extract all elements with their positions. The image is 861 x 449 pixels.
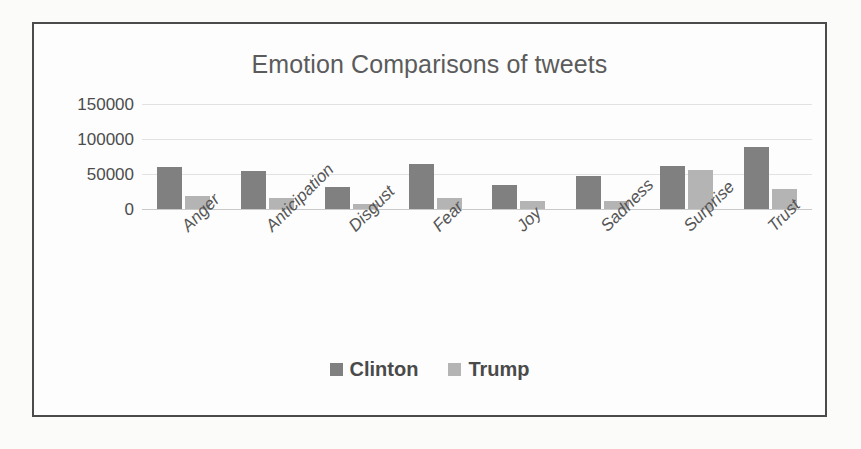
- y-axis: 150000 100000 50000 0: [44, 104, 134, 219]
- x-axis-cell-1: Anticipation: [226, 212, 310, 302]
- bar-group-trust: [728, 104, 812, 209]
- x-axis-cell-2: Disgust: [310, 212, 394, 302]
- legend-label-trump: Trump: [468, 358, 529, 381]
- y-axis-tick-50000: 50000: [48, 166, 134, 183]
- bar-clinton-anticipation[interactable]: [241, 171, 266, 210]
- x-axis-cell-7: Trust: [728, 212, 812, 302]
- x-axis-cell-0: Anger: [142, 212, 226, 302]
- chart-title: Emotion Comparisons of tweets: [34, 50, 825, 79]
- y-axis-tick-0: 0: [48, 201, 134, 218]
- legend-label-clinton: Clinton: [350, 358, 419, 381]
- legend-item-clinton[interactable]: Clinton: [330, 358, 419, 381]
- x-axis-labels: Anger Anticipation Disgust Fear Joy Sadn…: [142, 212, 812, 302]
- chart-legend: Clinton Trump: [34, 358, 825, 381]
- bar-group-joy: [477, 104, 561, 209]
- legend-swatch-clinton-icon: [330, 363, 343, 376]
- bar-clinton-anger[interactable]: [157, 167, 182, 209]
- bar-clinton-joy[interactable]: [492, 185, 517, 210]
- bar-clinton-fear[interactable]: [409, 164, 434, 209]
- bar-clinton-sadness[interactable]: [576, 176, 601, 209]
- x-axis-cell-6: Surprise: [645, 212, 729, 302]
- bar-group-fear: [393, 104, 477, 209]
- x-axis-cell-3: Fear: [393, 212, 477, 302]
- bar-clinton-trust[interactable]: [744, 147, 769, 209]
- x-axis-cell-5: Sadness: [561, 212, 645, 302]
- bar-clinton-disgust[interactable]: [325, 187, 350, 209]
- x-axis-cell-4: Joy: [477, 212, 561, 302]
- chart-frame: Emotion Comparisons of tweets 150000 100…: [32, 22, 827, 417]
- y-axis-tick-100000: 100000: [48, 131, 134, 148]
- bar-clinton-surprise[interactable]: [660, 166, 685, 209]
- legend-item-trump[interactable]: Trump: [448, 358, 529, 381]
- y-axis-tick-150000: 150000: [48, 96, 134, 113]
- scanned-page-background: Emotion Comparisons of tweets 150000 100…: [0, 0, 861, 449]
- legend-swatch-trump-icon: [448, 363, 461, 376]
